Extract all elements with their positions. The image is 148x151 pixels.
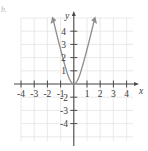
- x-tick-label: 3: [111, 89, 116, 99]
- x-tick-label: -3: [30, 89, 38, 99]
- y-tick-label: 1: [61, 66, 66, 76]
- coordinate-plane-svg: -4 -3 -2 -1 1 2 3 4 4 3 2 1 -2 -3 -4 x y: [0, 0, 148, 151]
- y-tick-label: 2: [61, 53, 66, 63]
- y-tick-label: -4: [60, 119, 68, 129]
- y-axis-label: y: [64, 11, 70, 21]
- x-tick-label: -4: [17, 89, 25, 99]
- x-tick-label: 4: [124, 89, 129, 99]
- x-tick-label: 2: [98, 89, 103, 99]
- y-tick-labels: 4 3 2 1 -2 -3 -4: [60, 27, 68, 129]
- parabola-graph-figure: b.: [0, 0, 148, 151]
- y-tick-label: 4: [61, 27, 66, 37]
- x-tick-label: 1: [85, 89, 90, 99]
- y-tick-label: 3: [61, 40, 66, 50]
- grid-horizontal-lines: [21, 18, 133, 137]
- y-tick-label: -3: [60, 106, 68, 116]
- y-tick-label: -2: [60, 93, 68, 103]
- x-tick-label: -2: [43, 89, 51, 99]
- y-axis-arrowhead: [72, 11, 76, 16]
- x-axis-label: x: [138, 86, 144, 96]
